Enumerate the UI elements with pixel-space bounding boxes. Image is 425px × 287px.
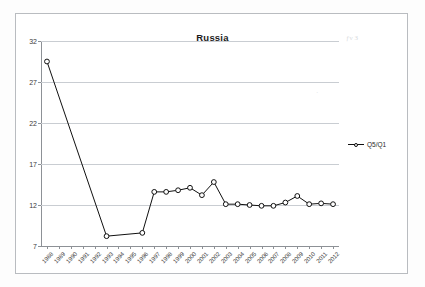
series-line-Q5Q1 (47, 62, 333, 237)
x-tick-label-1999: 1999 (172, 251, 185, 264)
x-tick-mark-2012 (333, 246, 334, 249)
x-tick-mark-1998 (166, 246, 167, 249)
x-tick-mark-2002 (214, 246, 215, 249)
data-point-2000[interactable] (188, 185, 193, 190)
screenshot-canvas: Russia ƒν З · 71217222732 19881989199019… (0, 0, 425, 287)
x-tick-label-2010: 2010 (303, 251, 316, 264)
x-tick-mark-1995 (130, 246, 131, 249)
data-point-2012[interactable] (331, 202, 336, 207)
legend-marker-icon (348, 141, 364, 148)
data-point-2002[interactable] (211, 180, 216, 185)
x-tick-mark-2006 (262, 246, 263, 249)
x-tick-mark-1990 (71, 246, 72, 249)
y-tick-label-22: 22 (29, 120, 37, 127)
x-tick-label-2007: 2007 (267, 251, 280, 264)
y-tick-label-12: 12 (29, 202, 37, 209)
chart-legend: Q5/Q1 (348, 141, 386, 148)
x-tick-mark-2010 (309, 246, 310, 249)
x-tick-label-1994: 1994 (112, 251, 125, 264)
data-point-2003[interactable] (223, 202, 228, 207)
x-tick-label-1989: 1989 (53, 251, 66, 264)
data-point-1988[interactable] (45, 59, 50, 64)
x-tick-label-2002: 2002 (208, 251, 221, 264)
data-point-2009[interactable] (295, 194, 300, 199)
x-tick-mark-2004 (238, 246, 239, 249)
x-tick-mark-2003 (226, 246, 227, 249)
x-tick-label-1990: 1990 (65, 251, 78, 264)
x-tick-mark-1997 (154, 246, 155, 249)
x-tick-label-2000: 2000 (184, 251, 197, 264)
data-point-2006[interactable] (259, 203, 264, 208)
x-tick-label-1997: 1997 (148, 251, 161, 264)
data-point-2011[interactable] (319, 201, 324, 206)
data-point-2001[interactable] (200, 193, 205, 198)
x-tick-mark-2009 (297, 246, 298, 249)
y-tick-label-17: 17 (29, 161, 37, 168)
x-tick-label-2005: 2005 (243, 251, 256, 264)
y-tick-mark-7 (38, 246, 41, 247)
x-tick-label-1995: 1995 (124, 251, 137, 264)
plot-area: 71217222732 1988198919901991199219931994… (41, 41, 339, 246)
x-tick-mark-1996 (142, 246, 143, 249)
x-tick-label-2003: 2003 (220, 251, 233, 264)
x-tick-label-1998: 1998 (160, 251, 173, 264)
x-tick-label-1993: 1993 (100, 251, 113, 264)
x-tick-label-2011: 2011 (315, 251, 328, 264)
data-point-1997[interactable] (152, 189, 157, 194)
x-tick-label-1996: 1996 (136, 251, 149, 264)
x-tick-label-2012: 2012 (327, 251, 340, 264)
data-point-2004[interactable] (235, 202, 240, 207)
x-tick-mark-1993 (107, 246, 108, 249)
y-tick-label-27: 27 (29, 79, 37, 86)
y-tick-label-7: 7 (33, 243, 37, 250)
x-tick-label-1992: 1992 (88, 251, 101, 264)
x-tick-label-2006: 2006 (255, 251, 268, 264)
data-point-2005[interactable] (247, 203, 252, 208)
x-tick-label-2008: 2008 (279, 251, 292, 264)
x-tick-mark-2001 (202, 246, 203, 249)
x-tick-label-1991: 1991 (77, 251, 90, 264)
data-point-1993[interactable] (104, 234, 109, 239)
x-tick-mark-1992 (95, 246, 96, 249)
x-tick-label-1988: 1988 (41, 251, 54, 264)
x-tick-mark-2007 (273, 246, 274, 249)
x-tick-label-2004: 2004 (232, 251, 245, 264)
x-tick-label-2009: 2009 (291, 251, 304, 264)
x-tick-mark-1994 (118, 246, 119, 249)
x-tick-mark-2008 (285, 246, 286, 249)
data-point-2007[interactable] (271, 203, 276, 208)
series-plot (41, 41, 339, 246)
x-tick-mark-1991 (83, 246, 84, 249)
x-tick-mark-1999 (178, 246, 179, 249)
data-point-2010[interactable] (307, 202, 312, 207)
data-point-1996[interactable] (140, 230, 145, 235)
x-tick-mark-1988 (47, 246, 48, 249)
y-tick-label-32: 32 (29, 38, 37, 45)
legend-label-q5q1: Q5/Q1 (367, 141, 386, 148)
data-point-1999[interactable] (176, 188, 181, 193)
x-tick-mark-1989 (59, 246, 60, 249)
x-tick-mark-2000 (190, 246, 191, 249)
x-tick-mark-2005 (250, 246, 251, 249)
data-point-2008[interactable] (283, 200, 288, 205)
data-point-1998[interactable] (164, 189, 169, 194)
x-tick-label-2001: 2001 (196, 251, 209, 264)
x-tick-mark-2011 (321, 246, 322, 249)
